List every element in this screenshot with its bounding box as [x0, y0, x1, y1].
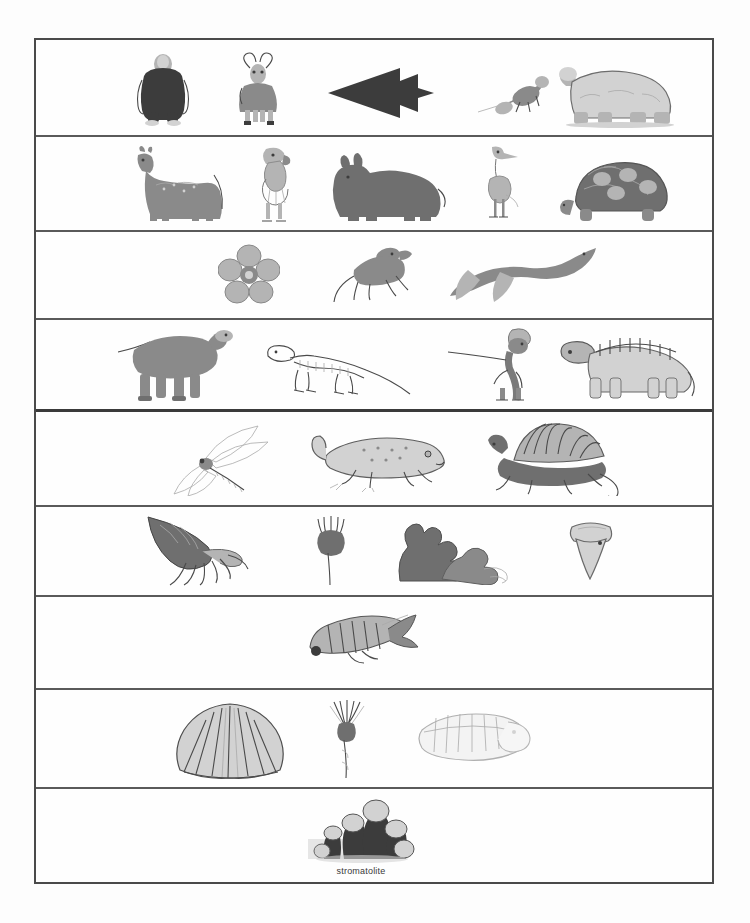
organism-plesiosaur — [448, 244, 598, 306]
organism-early-mammal — [328, 242, 418, 306]
organism-giant-dragonfly — [166, 424, 286, 496]
organism-early-horse — [126, 145, 226, 225]
organism-gorilla — [132, 50, 194, 126]
era-row — [36, 40, 712, 137]
era-row — [36, 507, 712, 597]
era-row — [36, 232, 712, 320]
organism-crane-bird — [476, 145, 524, 223]
organism-trilobite — [416, 708, 536, 766]
organism-sauropod-dinosaur — [116, 326, 236, 404]
organism-armored-dinosaur — [556, 330, 696, 402]
organism-crinoid — [308, 515, 354, 587]
organism-giant-tortoise — [554, 153, 674, 223]
organism-dinosaur-skeleton — [264, 334, 414, 402]
organism-dimetrodon — [484, 420, 624, 496]
organism-bighorn-sheep — [226, 52, 290, 126]
era-row — [36, 137, 712, 232]
organism-brontothere — [326, 151, 446, 223]
era-row: stromatolite — [36, 789, 712, 881]
era-row — [36, 597, 712, 690]
organism-ground-sloth — [554, 52, 684, 128]
organism-stromatolite: stromatolite — [306, 795, 416, 876]
organism-crested-theropod — [444, 326, 554, 404]
organism-brachiopod-shell — [176, 702, 286, 780]
era-row — [36, 690, 712, 789]
organism-small-mammal — [476, 72, 556, 124]
organism-early-amphibian — [308, 430, 448, 492]
organism-first-flower — [218, 244, 280, 306]
organism-label-stromatolite: stromatolite — [337, 866, 386, 876]
fossil-timeline-chart: stromatolite — [34, 38, 714, 884]
organism-armored-fish — [304, 613, 434, 671]
organism-shark-tooth — [566, 519, 616, 581]
organism-sea-pen — [324, 700, 370, 780]
era-row — [36, 320, 712, 412]
organism-stone-arrowhead — [326, 64, 436, 122]
organism-coral-colony — [384, 519, 514, 585]
era-row — [36, 412, 712, 507]
organism-nautiloid — [146, 515, 286, 587]
organism-terror-bird — [244, 145, 296, 225]
